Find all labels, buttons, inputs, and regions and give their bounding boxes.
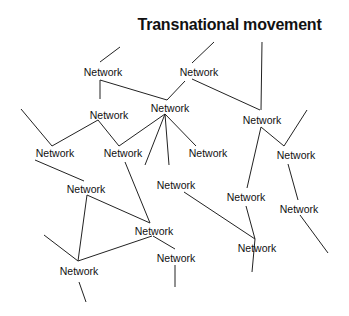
- connection-line: [52, 120, 98, 146]
- connection-line: [167, 81, 185, 100]
- network-node-label: Network: [157, 253, 196, 264]
- connection-line: [284, 110, 307, 146]
- connection-line: [79, 282, 86, 302]
- connection-line: [247, 127, 261, 188]
- connection-line: [165, 114, 169, 165]
- connection-line: [288, 164, 298, 200]
- connection-line: [35, 160, 84, 181]
- network-node-label: Network: [84, 67, 123, 78]
- connection-line: [153, 236, 175, 249]
- network-node-label: Network: [189, 148, 228, 159]
- network-node-label: Network: [67, 184, 106, 195]
- network-node-label: Network: [135, 226, 174, 237]
- network-node-label: Network: [104, 148, 143, 159]
- network-node-label: Network: [227, 192, 266, 203]
- network-node-label: Network: [90, 110, 129, 121]
- connection-line: [100, 80, 167, 100]
- network-node-label: Network: [280, 204, 319, 215]
- connection-line: [78, 236, 152, 261]
- network-node-label: Network: [180, 67, 219, 78]
- network-node-label: Network: [60, 266, 99, 277]
- connection-line: [261, 127, 284, 146]
- connection-line: [98, 120, 119, 146]
- network-node-label: Network: [157, 180, 196, 191]
- connection-line: [78, 195, 87, 261]
- connection-line: [21, 109, 52, 146]
- connection-line: [145, 114, 165, 165]
- network-node-label: Network: [277, 150, 316, 161]
- network-node-label: Network: [243, 115, 282, 126]
- connection-line: [165, 114, 196, 146]
- connection-line: [44, 235, 78, 261]
- connection-line: [192, 42, 214, 63]
- network-node-label: Network: [36, 148, 75, 159]
- connection-line: [261, 42, 262, 110]
- network-node-label: Network: [238, 243, 277, 254]
- network-node-label: Network: [151, 103, 190, 114]
- connection-line: [300, 215, 328, 253]
- connection-line: [192, 79, 260, 110]
- connection-line: [100, 47, 120, 62]
